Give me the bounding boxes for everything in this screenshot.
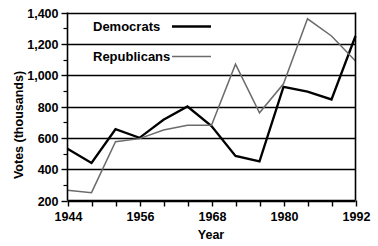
y-tick-label: 1,400 — [27, 7, 58, 21]
y-tick-label: 800 — [38, 101, 59, 115]
x-axis-title: Year — [198, 228, 225, 242]
y-tick-label: 600 — [38, 132, 59, 146]
legend-label-democrats: Democrats — [93, 19, 160, 34]
y-axis-title: Votes (thousands) — [12, 71, 26, 179]
x-tick-label: 1992 — [343, 210, 371, 224]
y-tick-label: 1,000 — [27, 69, 58, 83]
x-tick-label: 1980 — [271, 210, 299, 224]
y-tick-label: 1,200 — [27, 38, 58, 52]
votes-by-party-line-chart: 2004006008001,0001,2001,400 194419561968… — [0, 0, 378, 246]
legend-label-republicans: Republicans — [93, 49, 170, 64]
x-tick-label: 1956 — [127, 210, 155, 224]
y-tick-label: 200 — [38, 195, 59, 209]
x-tick-label: 1968 — [199, 210, 227, 224]
y-tick-label: 400 — [38, 163, 59, 177]
x-tick-label: 1944 — [55, 210, 83, 224]
chart-canvas: 2004006008001,0001,2001,400 194419561968… — [0, 0, 378, 246]
